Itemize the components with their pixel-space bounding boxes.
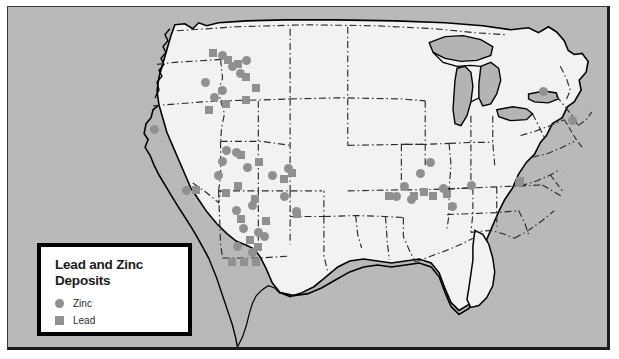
legend-label-zinc: Zinc xyxy=(73,298,92,309)
map-frame: Lead and Zinc Deposits Zinc Lead xyxy=(7,6,610,350)
map-legend: Lead and Zinc Deposits Zinc Lead xyxy=(37,243,192,336)
zinc-marker-icon xyxy=(55,299,64,308)
lead-marker-icon xyxy=(55,316,64,325)
legend-label-lead: Lead xyxy=(73,315,95,326)
legend-item-zinc: Zinc xyxy=(55,296,188,311)
legend-item-lead: Lead xyxy=(55,313,188,328)
legend-title: Lead and Zinc Deposits xyxy=(55,257,188,289)
map-screenshot: Lead and Zinc Deposits Zinc Lead xyxy=(0,0,619,359)
